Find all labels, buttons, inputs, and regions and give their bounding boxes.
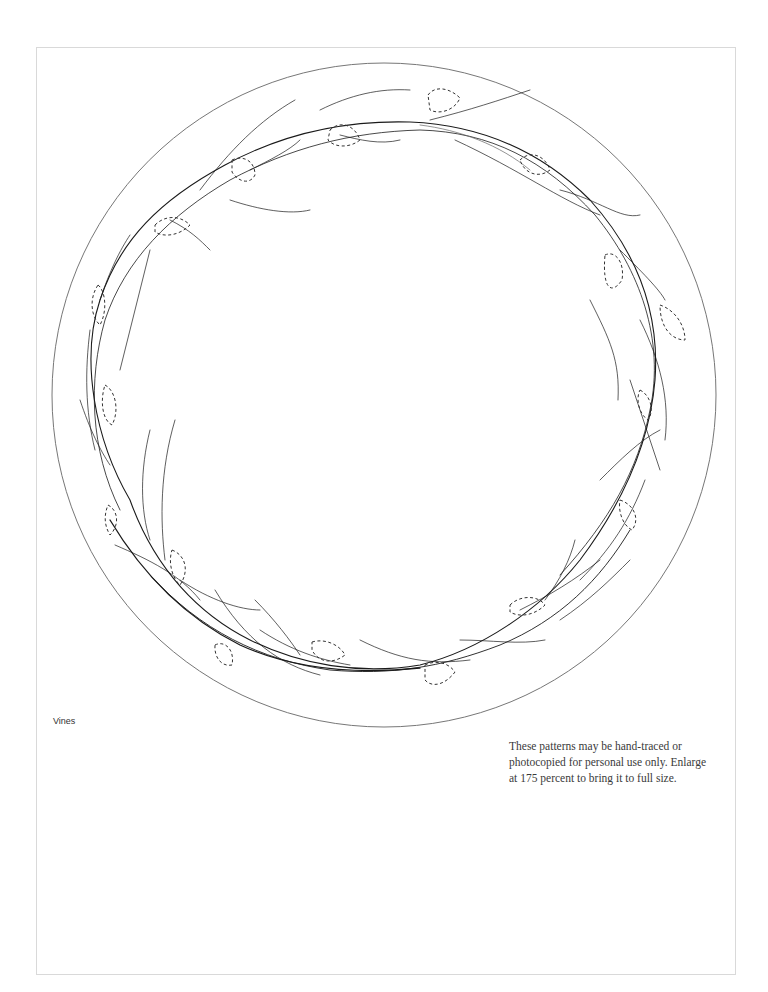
usage-notice-line: These patterns may be hand-traced or [509, 738, 734, 754]
leaf-outline [102, 385, 116, 425]
usage-notice-line: photocopied for personal use only. Enlar… [509, 754, 734, 770]
leaf-outline [105, 505, 116, 535]
leaf-outlines [92, 89, 685, 685]
leaf-outline [170, 550, 185, 585]
leaf-outline [312, 641, 345, 661]
usage-notice-line: at 175 percent to bring it to full size. [509, 770, 734, 786]
vine-strokes [80, 90, 666, 675]
leaf-outline [660, 305, 685, 340]
leaf-outline [604, 254, 622, 288]
vine-wreath-pattern [0, 0, 768, 992]
pattern-caption: Vines [53, 716, 75, 726]
leaf-outline [215, 644, 233, 666]
plate-outline-circle [52, 63, 716, 727]
leaf-outline [620, 500, 636, 530]
leaf-outline [328, 125, 360, 146]
usage-notice: These patterns may be hand-traced or pho… [509, 738, 734, 786]
leaf-outline [428, 89, 460, 112]
